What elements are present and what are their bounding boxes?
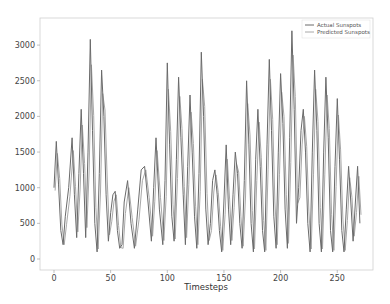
- sunspots-line-chart: 050010001500200025003000 050100150200250…: [0, 0, 390, 304]
- x-tick-label: 250: [330, 274, 345, 283]
- legend: Actual Sunspots Predicted Sunspots: [302, 20, 370, 38]
- x-tick-label: 100: [160, 274, 175, 283]
- x-tick-label: 200: [273, 274, 288, 283]
- y-tick-label: 1500: [15, 148, 35, 157]
- y-tick-label: 2500: [15, 77, 35, 86]
- y-tick-label: 2000: [15, 112, 35, 121]
- x-axis-label: Timesteps: [183, 282, 228, 292]
- legend-actual-label: Actual Sunspots: [317, 22, 361, 29]
- legend-predicted-label: Predicted Sunspots: [317, 29, 370, 36]
- y-tick-label: 3000: [15, 41, 35, 50]
- x-tick-label: 50: [106, 274, 116, 283]
- x-tick-label: 0: [51, 274, 56, 283]
- y-tick-label: 500: [20, 219, 35, 228]
- y-tick-label: 0: [30, 255, 35, 264]
- y-tick-label: 1000: [15, 184, 35, 193]
- y-axis-ticks: 050010001500200025003000: [15, 41, 40, 264]
